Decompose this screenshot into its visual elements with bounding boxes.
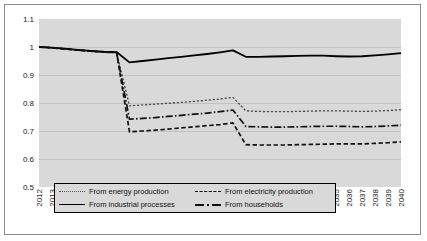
x-axis-tick-label: 2036 — [345, 189, 354, 207]
y-axis-tick-label: 0.9 — [23, 71, 34, 80]
series-line-from-industrial-processes — [39, 47, 401, 62]
y-axis-tick-label: 0.8 — [23, 99, 34, 108]
plot-area — [39, 19, 401, 187]
x-axis-tick-label: 2039 — [384, 189, 393, 207]
series-line-from-electricity-production — [39, 47, 401, 145]
chart-legend: From energy production From electricity … — [54, 183, 336, 213]
legend-swatch-dashdot-icon — [195, 204, 221, 206]
legend-item-energy-production: From energy production — [59, 187, 195, 196]
legend-swatch-solid-icon — [59, 204, 85, 205]
legend-label: From industrial processes — [89, 200, 175, 209]
y-axis-tick-label: 1.1 — [23, 15, 34, 24]
legend-item-industrial-processes: From industrial processes — [59, 200, 195, 209]
y-axis-tick-label: 1 — [30, 43, 34, 52]
chart-frame: 1.110.90.80.70.60.5 20122013201420152016… — [4, 4, 421, 235]
legend-label: From energy production — [89, 187, 169, 196]
legend-label: From electricity production — [225, 187, 313, 196]
series-line-from-households — [39, 47, 401, 127]
legend-swatch-dotted-icon — [59, 191, 85, 192]
legend-item-electricity-production: From electricity production — [195, 187, 331, 196]
x-axis-tick-label: 2038 — [371, 189, 380, 207]
x-axis-tick-label: 2037 — [358, 189, 367, 207]
x-axis-tick-label: 2012 — [35, 189, 44, 207]
legend-item-households: From households — [195, 200, 331, 209]
y-axis-tick-label: 0.7 — [23, 127, 34, 136]
y-axis-tick-label: 0.5 — [23, 183, 34, 192]
y-axis-tick-label: 0.6 — [23, 155, 34, 164]
legend-swatch-dashed-icon — [195, 191, 221, 192]
legend-label: From households — [225, 200, 283, 209]
series-layer — [39, 19, 401, 187]
x-axis-tick-label: 2040 — [397, 189, 406, 207]
